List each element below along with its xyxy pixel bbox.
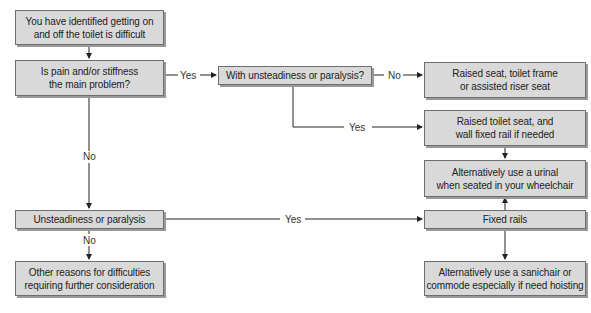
sanichair-text-2: commode especially if need hoisting [426, 279, 583, 292]
raised-seat-frame-text-1: Raised seat, toilet frame [452, 67, 557, 80]
raised-seat-frame-text-2: or assisted riser seat [452, 80, 557, 93]
raised-seat-frame-node: Raised seat, toilet frameor assisted ris… [424, 62, 586, 98]
start-text-1: You have identified getting on [26, 15, 154, 28]
urinal-node: Alternatively use a urinalwhen seated in… [424, 160, 586, 197]
pain-question-node: Is pain and/or stiffnessthe main problem… [15, 60, 164, 96]
edge-label-unsteady-yes: Yes [283, 214, 303, 225]
with-unsteadiness-text: With unsteadiness or paralysis? [226, 69, 364, 82]
sanichair-text-1: Alternatively use a sanichair or [426, 266, 583, 279]
unsteadiness-text: Unsteadiness or paralysis [34, 213, 146, 226]
raised-seat-rail-text-2: wall fixed rail if needed [456, 128, 555, 141]
fixed-rails-node: Fixed rails [424, 210, 586, 229]
edge-label-pain-yes: Yes [178, 70, 198, 81]
other-reasons-text-2: requiring further consideration [25, 279, 155, 292]
edge-label-pain-no: No [81, 151, 98, 162]
unsteadiness-question-node: Unsteadiness or paralysis [15, 210, 164, 229]
pain-question-text-1: Is pain and/or stiffness [41, 65, 138, 78]
with-unsteadiness-question-node: With unsteadiness or paralysis? [218, 66, 372, 85]
fixed-rails-text: Fixed rails [483, 213, 527, 226]
edge-label-with-unsteady-yes: Yes [347, 122, 367, 133]
raised-seat-rail-text-1: Raised toilet seat, and [456, 115, 555, 128]
urinal-text-1: Alternatively use a urinal [436, 166, 573, 179]
start-text-2: and off the toilet is difficult [26, 28, 154, 41]
pain-question-text-2: the main problem? [41, 78, 138, 91]
start-node: You have identified getting onand off th… [15, 10, 164, 45]
sanichair-node: Alternatively use a sanichair orcommode … [424, 261, 586, 296]
edge-label-with-unsteady-no: No [386, 70, 403, 81]
urinal-text-2: when seated in your wheelchair [436, 179, 573, 192]
raised-seat-rail-node: Raised toilet seat, andwall fixed rail i… [424, 110, 586, 146]
other-reasons-text-1: Other reasons for difficulties [25, 266, 155, 279]
other-reasons-node: Other reasons for difficultiesrequiring … [15, 261, 164, 296]
edge-label-unsteady-no: No [81, 235, 98, 246]
